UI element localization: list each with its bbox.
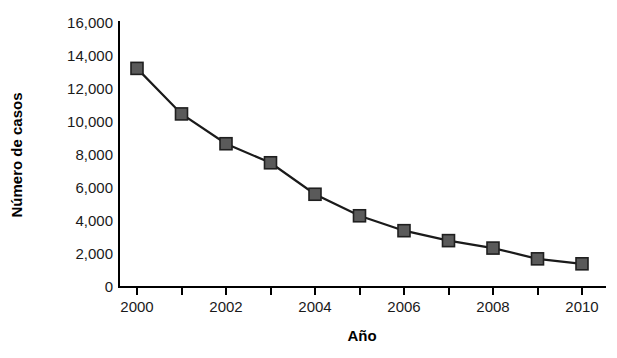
x-tick-label-2010: 2010 xyxy=(565,298,598,315)
x-axis-tick-marks xyxy=(137,287,582,295)
data-point-marker xyxy=(487,242,499,254)
y-tick-label-12000: 12,000 xyxy=(67,80,113,97)
x-axis-tick-labels: 2000 2002 2004 2006 2008 2010 xyxy=(120,298,598,315)
axis-lines xyxy=(119,22,605,287)
line-chart: 16,000 14,000 12,000 10,000 8,000 6,000 … xyxy=(0,0,617,358)
data-point-marker xyxy=(354,210,366,222)
x-tick-label-2008: 2008 xyxy=(476,298,509,315)
x-tick-label-2006: 2006 xyxy=(387,298,420,315)
series-markers xyxy=(131,62,588,269)
y-tick-label-16000: 16,000 xyxy=(67,14,113,31)
data-point-marker xyxy=(443,235,455,247)
series-line-numero-de-casos xyxy=(137,68,582,263)
x-axis-title: Año xyxy=(347,327,376,344)
y-axis-tick-labels: 16,000 14,000 12,000 10,000 8,000 6,000 … xyxy=(67,14,113,295)
chart-canvas: 16,000 14,000 12,000 10,000 8,000 6,000 … xyxy=(0,0,617,358)
data-point-marker xyxy=(532,253,544,265)
data-point-marker xyxy=(176,108,188,120)
y-tick-label-2000: 2,000 xyxy=(75,245,113,262)
data-point-marker xyxy=(576,258,588,270)
y-tick-label-10000: 10,000 xyxy=(67,113,113,130)
data-point-marker xyxy=(220,138,232,150)
x-tick-label-2000: 2000 xyxy=(120,298,153,315)
data-point-marker xyxy=(131,62,143,74)
y-tick-label-14000: 14,000 xyxy=(67,47,113,64)
y-axis-title: Número de casos xyxy=(8,92,25,217)
data-point-marker xyxy=(309,188,321,200)
y-tick-label-4000: 4,000 xyxy=(75,212,113,229)
y-tick-label-8000: 8,000 xyxy=(75,146,113,163)
data-series-group xyxy=(131,62,588,269)
x-tick-label-2002: 2002 xyxy=(209,298,242,315)
data-point-marker xyxy=(265,157,277,169)
y-tick-label-0: 0 xyxy=(105,278,113,295)
data-point-marker xyxy=(398,225,410,237)
y-tick-label-6000: 6,000 xyxy=(75,179,113,196)
x-tick-label-2004: 2004 xyxy=(298,298,331,315)
